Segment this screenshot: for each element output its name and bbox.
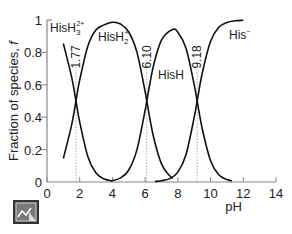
x-tick-label: 14 (269, 186, 283, 201)
chart-view-button[interactable] (13, 200, 39, 224)
y-tick-label: 1 (35, 13, 42, 28)
y-tick-label: 0 (35, 175, 42, 190)
x-axis-title: pH (225, 199, 242, 214)
y-tick-label: 0.2 (24, 143, 42, 158)
pka-label: 6.10 (140, 45, 154, 69)
species-curve (112, 29, 231, 181)
species-label: His− (229, 28, 250, 42)
x-tick-label: 4 (109, 186, 116, 201)
species-curve (155, 20, 243, 181)
y-tick-label: 0.6 (24, 78, 42, 93)
y-tick-label: 0.8 (24, 45, 42, 60)
line-chart-icon (15, 202, 37, 222)
x-tick-label: 8 (174, 186, 181, 201)
species-label: HisH (158, 68, 184, 82)
species-curves (63, 20, 243, 181)
pka-label: 9.18 (190, 45, 204, 69)
titration-chart: 0246810121400.20.40.60.81pHFraction of s… (0, 0, 292, 234)
x-tick-label: 10 (203, 186, 217, 201)
y-tick-label: 0.4 (24, 110, 42, 125)
y-axis-title: Fraction of species, f (6, 40, 21, 161)
pka-label: 1.77 (69, 45, 83, 69)
species-label: HisH2+ (98, 29, 129, 46)
x-tick-label: 6 (142, 186, 149, 201)
x-tick-label: 0 (43, 186, 50, 201)
x-tick-label: 2 (76, 186, 83, 201)
species-label: HisH32+ (50, 20, 84, 37)
